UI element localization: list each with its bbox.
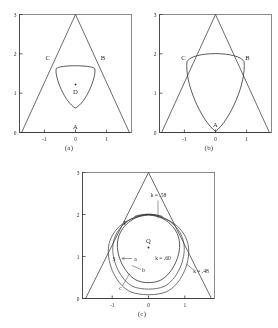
series-equilateral-triangle xyxy=(22,15,130,133)
y-tick-label: 1 xyxy=(77,254,80,260)
plot-frame xyxy=(83,173,215,299)
panel-b-caption: (b) xyxy=(142,144,276,152)
leader-a xyxy=(122,257,132,260)
point-label-S: S xyxy=(112,256,115,262)
y-axis-ticks: 0 1 2 3 xyxy=(77,170,86,302)
x-tick-label: 1 xyxy=(105,136,108,142)
figure-plate: 0 1 2 3 -1 0 1 A B C D (a) xyxy=(0,0,278,328)
panel-c-caption: (c) xyxy=(62,310,222,318)
y-tick-label: 3 xyxy=(14,12,17,18)
axis-lines xyxy=(20,15,132,133)
panel-a-plot: 0 1 2 3 -1 0 1 A B C D xyxy=(2,8,136,156)
panel-a-caption: (a) xyxy=(2,144,136,152)
point-label-P: P xyxy=(123,220,126,226)
y-tick-label: 0 xyxy=(154,130,157,136)
x-tick-label: 1 xyxy=(183,302,186,308)
point-label-a: a xyxy=(134,256,137,262)
y-axis-ticks: 0 1 2 3 xyxy=(154,12,163,136)
series-level-curve-k58 xyxy=(117,215,179,283)
point-label-Q: Q xyxy=(146,237,151,244)
y-tick-label: 2 xyxy=(14,51,17,57)
panel-b: 0 1 2 3 -1 0 1 A B C (b) xyxy=(142,8,276,156)
k-label-60: k = .60 xyxy=(155,255,171,261)
x-axis-ticks: -1 0 1 xyxy=(110,296,186,309)
panel-c-plot: 0 1 2 3 -1 0 1 k = .58 xyxy=(62,166,222,324)
leader-c xyxy=(123,274,130,287)
series-equilateral-triangle xyxy=(86,173,212,299)
plot-frame xyxy=(160,15,272,133)
x-tick-label: 1 xyxy=(245,136,248,142)
point-label-b: b xyxy=(142,267,145,273)
y-tick-label: 1 xyxy=(14,90,17,96)
point-label-C: C xyxy=(45,54,50,61)
point-label-A: A xyxy=(73,123,78,130)
y-tick-label: 1 xyxy=(154,90,157,96)
point-label-D: D xyxy=(73,88,78,95)
x-tick-label: -1 xyxy=(182,136,187,142)
y-tick-label: 3 xyxy=(77,170,80,176)
k-label-48: k = .48 xyxy=(193,268,209,274)
point-label-C: C xyxy=(181,54,186,61)
point-label-B: B xyxy=(245,54,250,61)
y-tick-label: 2 xyxy=(154,51,157,57)
panel-a: 0 1 2 3 -1 0 1 A B C D (a) xyxy=(2,8,136,156)
point-label-B: B xyxy=(101,54,106,61)
y-tick-label: 0 xyxy=(77,296,80,302)
point-label-A: A xyxy=(213,121,218,128)
axis-lines xyxy=(160,15,272,133)
y-tick-label: 3 xyxy=(154,12,157,18)
center-marker-D xyxy=(75,84,77,86)
k-label-58: k = .58 xyxy=(151,192,167,198)
y-axis-ticks: 0 1 2 3 xyxy=(14,12,23,136)
x-tick-label: -1 xyxy=(42,136,47,142)
y-tick-label: 2 xyxy=(77,212,80,218)
y-tick-label: 0 xyxy=(14,130,17,136)
leader-k48 xyxy=(187,264,194,270)
series-equilateral-triangle xyxy=(162,15,270,133)
leader-b xyxy=(132,266,141,270)
series-teardrop-curve xyxy=(187,54,245,132)
panel-c: 0 1 2 3 -1 0 1 k = .58 xyxy=(62,166,222,324)
x-axis-ticks: -1 0 1 xyxy=(42,130,108,143)
x-tick-label: 0 xyxy=(147,302,150,308)
panel-b-plot: 0 1 2 3 -1 0 1 A B C xyxy=(142,8,276,156)
center-marker-Q xyxy=(148,247,150,249)
x-tick-label: -1 xyxy=(110,302,115,308)
x-tick-label: 0 xyxy=(74,136,77,142)
axis-lines xyxy=(83,173,215,299)
x-tick-label: 0 xyxy=(214,136,217,142)
plot-frame xyxy=(20,15,132,133)
